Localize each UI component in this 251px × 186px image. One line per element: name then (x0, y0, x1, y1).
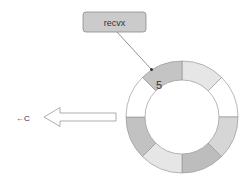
ring-buffer (126, 61, 238, 173)
slot-value: 5 (156, 79, 162, 91)
recvx-label: recvx (104, 18, 126, 28)
direction-label: ←C (16, 114, 30, 123)
circular-buffer-diagram: 5 recvx ←C (0, 0, 251, 186)
pointer-arrowhead-icon (150, 68, 153, 71)
pointer-line (117, 32, 151, 69)
left-arrow-icon (44, 108, 116, 127)
